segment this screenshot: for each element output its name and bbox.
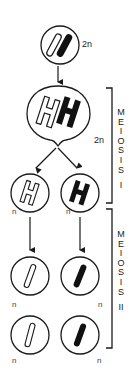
ploidy-label-m2-3: n xyxy=(12,357,16,365)
bracket-meiosis-1 xyxy=(106,88,112,203)
ploidy-label-m2-2: n xyxy=(98,301,102,309)
stage-numeral-2: II xyxy=(116,303,126,313)
meiosis-2-cell-2 xyxy=(61,257,99,295)
stage-label-meiosis-1: M E I O S I S I xyxy=(116,108,126,191)
meiosis-1-cell-left xyxy=(11,174,49,212)
parent-cell xyxy=(41,26,79,64)
meiosis-2-cell-3 xyxy=(11,316,49,354)
ploidy-label-parent: 2n xyxy=(82,40,92,49)
meiosis-2-cell-1 xyxy=(11,257,49,295)
ploidy-label-m2-1: n xyxy=(12,301,16,309)
bracket-meiosis-2 xyxy=(106,209,112,348)
ploidy-label-m1-left: n xyxy=(12,208,16,216)
ploidy-label-m2-4: n xyxy=(97,357,101,365)
meiosis-2-cell-4 xyxy=(61,316,99,354)
ploidy-label-m1-right: n xyxy=(66,208,70,216)
stage-numeral-1: I xyxy=(116,181,126,191)
replicated-cell xyxy=(27,86,90,146)
arrow-left xyxy=(36,148,56,168)
stage-label-meiosis-2: M E I O S I S II xyxy=(116,230,126,313)
arrow-right xyxy=(58,148,77,168)
ploidy-label-replicated: 2n xyxy=(94,136,104,145)
